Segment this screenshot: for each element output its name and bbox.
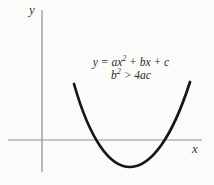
parabola-curve — [74, 82, 190, 167]
x-axis-label: x — [192, 142, 198, 155]
equation-line2: b2 > 4ac — [81, 69, 181, 82]
parabola-figure: y x y = ax2 + bx + c b2 > 4ac — [0, 0, 214, 185]
equation-line1-post: + bx + c — [126, 56, 169, 68]
y-axis-label: y — [29, 3, 35, 16]
equation-line1: y = ax2 + bx + c — [81, 56, 181, 69]
plot-canvas — [0, 0, 214, 185]
equation-annotation: y = ax2 + bx + c b2 > 4ac — [81, 56, 181, 82]
equation-line2-post: > 4ac — [121, 69, 151, 81]
